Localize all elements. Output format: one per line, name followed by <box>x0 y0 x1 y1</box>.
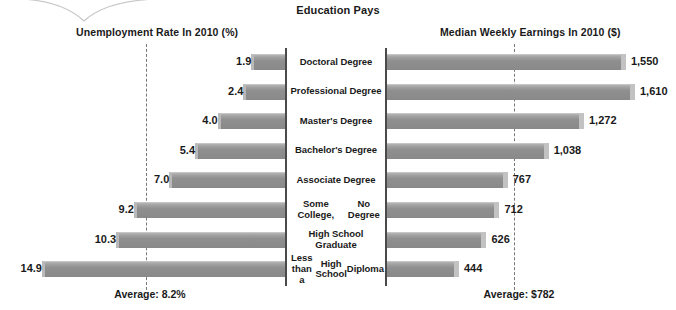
chart-row: 9.2Some College,No Degree712 <box>0 196 676 224</box>
category-label-line: Some College, <box>288 199 344 220</box>
unemployment-value: 10.3 <box>95 231 116 247</box>
education-pays-chart: Education Pays Unemployment Rate In 2010… <box>0 0 676 310</box>
category-label: High School Graduate <box>288 226 384 254</box>
category-label-line: Master's Degree <box>300 116 372 127</box>
unemployment-bar <box>116 232 285 248</box>
category-label: Professional Degree <box>288 78 384 106</box>
category-label-line: Bachelor's Degree <box>295 145 377 156</box>
chart-row: 10.3High School Graduate626 <box>0 226 676 254</box>
category-label: Associate Degree <box>288 166 384 194</box>
category-label: Some College,No Degree <box>288 196 384 224</box>
right-panel-title: Median Weekly Earnings In 2010 ($) <box>440 26 621 38</box>
right-average-label: Average: $782 <box>484 288 555 300</box>
unemployment-value: 4.0 <box>202 112 217 128</box>
chart-row: 4.0Master's Degree1,272 <box>0 107 676 135</box>
chart-title: Education Pays <box>0 4 676 16</box>
category-label: Less than aHigh SchoolDiploma <box>288 255 384 283</box>
earnings-bar <box>387 54 626 70</box>
unemployment-value: 2.4 <box>228 83 243 99</box>
chart-row: 14.9Less than aHigh SchoolDiploma444 <box>0 255 676 283</box>
earnings-bar <box>387 261 459 277</box>
earnings-value: 1,610 <box>640 83 668 99</box>
category-label-line: Professional Degree <box>291 86 382 97</box>
earnings-value: 767 <box>513 171 531 187</box>
unemployment-bar <box>243 84 285 100</box>
unemployment-bar <box>218 113 285 129</box>
category-label-line: High School Graduate <box>288 229 384 250</box>
unemployment-value: 14.9 <box>21 260 42 276</box>
unemployment-bar <box>251 54 285 70</box>
earnings-bar <box>387 84 635 100</box>
earnings-bar <box>387 172 508 188</box>
earnings-bar <box>387 113 584 129</box>
category-label-line: No Degree <box>344 199 384 220</box>
category-label-line: Diploma <box>347 264 384 275</box>
earnings-value: 1,038 <box>554 142 582 158</box>
unemployment-value: 1.9 <box>236 53 251 69</box>
unemployment-value: 9.2 <box>119 201 134 217</box>
earnings-bar <box>387 143 549 159</box>
chart-row: 5.4Bachelor's Degree1,038 <box>0 137 676 165</box>
chart-row: 1.9Doctoral Degree1,550 <box>0 48 676 76</box>
earnings-value: 626 <box>491 231 509 247</box>
unemployment-bar <box>169 172 285 188</box>
chart-row: 7.0Associate Degree767 <box>0 166 676 194</box>
category-label: Doctoral Degree <box>288 48 384 76</box>
earnings-value: 1,550 <box>631 53 659 69</box>
chart-row: 2.4Professional Degree1,610 <box>0 78 676 106</box>
unemployment-bar <box>42 261 285 277</box>
unemployment-value: 5.4 <box>180 142 195 158</box>
category-label-line: Doctoral Degree <box>300 57 373 68</box>
left-average-label: Average: 8.2% <box>114 288 185 300</box>
unemployment-bar <box>195 143 285 159</box>
earnings-value: 444 <box>464 260 482 276</box>
earnings-value: 1,272 <box>589 112 617 128</box>
unemployment-bar <box>134 202 285 218</box>
earnings-value: 712 <box>504 201 522 217</box>
category-label: Master's Degree <box>288 107 384 135</box>
left-panel-title: Unemployment Rate In 2010 (%) <box>76 26 238 38</box>
category-label-line: High School <box>315 259 346 280</box>
earnings-bar <box>387 202 499 218</box>
unemployment-value: 7.0 <box>154 171 169 187</box>
category-label-line: Associate Degree <box>297 175 376 186</box>
earnings-bar <box>387 232 486 248</box>
category-label: Bachelor's Degree <box>288 137 384 165</box>
category-label-line: Less than a <box>288 253 315 285</box>
chart-rows: 1.9Doctoral Degree1,5502.4Professional D… <box>0 48 676 286</box>
